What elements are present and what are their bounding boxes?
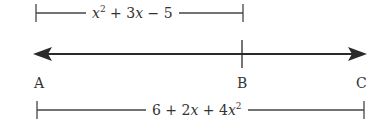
var-x: x <box>228 102 236 118</box>
bottom-segment-expression: 6 + 2x + 4x2 <box>146 102 248 118</box>
top-segment-expression: x2 + 3x − 5 <box>86 5 179 21</box>
term: − 5 <box>143 5 173 21</box>
point-label-c: C <box>356 76 367 90</box>
exponent: 2 <box>236 101 242 111</box>
term: + 3 <box>106 5 136 21</box>
point-label-a: A <box>34 76 44 90</box>
point-label-b: B <box>237 76 247 90</box>
var-x: x <box>92 5 100 21</box>
term: 6 + 2 <box>152 102 190 118</box>
term: + 4 <box>198 102 228 118</box>
var-x: x <box>135 5 143 21</box>
number-line <box>33 40 367 68</box>
